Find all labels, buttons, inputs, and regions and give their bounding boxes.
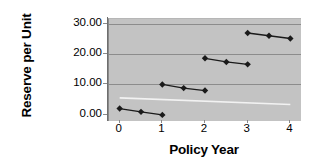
- y-axis-tick-label: 10.00: [56, 77, 102, 89]
- data-point-marker: [266, 33, 272, 39]
- x-axis-tick-label: 3: [235, 123, 259, 135]
- data-point-marker: [180, 85, 186, 91]
- data-series: [244, 30, 293, 42]
- reserve-per-unit-chart: Reserve per Unit 0.0010.0020.0030.00 012…: [0, 0, 317, 166]
- y-axis-tick-labels: 0.0010.0020.0030.00: [56, 0, 102, 166]
- data-series: [202, 55, 251, 67]
- x-axis-tick-mark: [204, 120, 205, 123]
- plot-area: [108, 18, 301, 121]
- data-point-marker: [244, 61, 250, 67]
- data-point-marker: [202, 55, 208, 61]
- data-point-marker: [138, 109, 144, 115]
- x-axis-title: Policy Year: [108, 142, 300, 157]
- data-point-marker: [223, 59, 229, 65]
- x-axis-tick-mark: [161, 120, 162, 123]
- x-axis-tick-mark: [247, 120, 248, 123]
- x-axis-tick-mark: [119, 120, 120, 123]
- data-series: [159, 81, 208, 93]
- x-axis-tick-labels: 01234: [108, 123, 300, 141]
- data-point-marker: [159, 112, 165, 118]
- y-axis-title: Reserve per Unit: [19, 0, 34, 136]
- data-point-marker: [159, 81, 165, 87]
- x-axis-tick-label: 0: [107, 123, 131, 135]
- data-point-marker: [116, 105, 122, 111]
- data-point-marker: [202, 87, 208, 93]
- x-axis-tick-label: 4: [277, 123, 301, 135]
- data-point-marker: [244, 30, 250, 36]
- reference-line: [120, 98, 291, 105]
- y-axis-tick-label: 20.00: [56, 47, 102, 59]
- data-point-marker: [287, 35, 293, 41]
- data-series: [116, 105, 165, 118]
- plot-canvas: [109, 19, 301, 121]
- x-axis-tick-label: 2: [192, 123, 216, 135]
- y-axis-tick-label: 0.00: [56, 108, 102, 120]
- y-axis-tick-label: 30.00: [56, 17, 102, 29]
- x-axis-tick-label: 1: [149, 123, 173, 135]
- x-axis-tick-mark: [289, 120, 290, 123]
